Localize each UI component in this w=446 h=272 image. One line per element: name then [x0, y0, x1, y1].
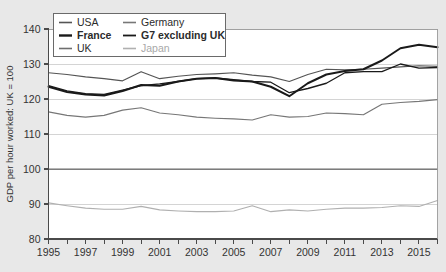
- y-tick-label: 80: [29, 233, 41, 245]
- x-tick-label: 2001: [148, 246, 172, 258]
- x-tick-label: 1999: [111, 246, 135, 258]
- y-axis-title: GDP per hour worked: UK = 100: [4, 66, 15, 203]
- legend-label-g7-excluding-uk: G7 excluding UK: [141, 29, 225, 41]
- legend-label-uk: UK: [77, 42, 92, 54]
- y-tick-label: 100: [23, 163, 41, 175]
- x-tick-label: 1997: [74, 246, 98, 258]
- y-tick-label: 90: [29, 198, 41, 210]
- y-tick-label: 130: [23, 58, 41, 70]
- y-tick-label: 120: [23, 93, 41, 105]
- x-tick-label: 2009: [296, 246, 320, 258]
- y-axis-title-text: GDP per hour worked: UK = 100: [4, 66, 15, 203]
- x-tick-label: 2013: [370, 246, 394, 258]
- x-tick-label: 2005: [222, 246, 246, 258]
- legend-label-germany: Germany: [141, 16, 185, 28]
- legend-label-usa: USA: [77, 16, 99, 28]
- x-tick-label: 2003: [185, 246, 209, 258]
- chart-container: 8090100110120130140 19951997199920012003…: [0, 0, 446, 272]
- x-tick-label: 2007: [259, 246, 283, 258]
- x-tick-label: 2015: [407, 246, 431, 258]
- chart-legend: USAGermanyFranceG7 excluding UKUKJapan: [54, 14, 226, 57]
- legend-label-france: France: [77, 29, 112, 41]
- line-chart: 8090100110120130140 19951997199920012003…: [0, 0, 446, 272]
- y-tick-label: 140: [23, 23, 41, 35]
- y-tick-label: 110: [24, 128, 41, 140]
- x-tick-label: 2011: [334, 246, 357, 258]
- x-tick-labels: 1995199719992001200320052007200920112013…: [37, 246, 431, 258]
- x-tick-label: 1995: [37, 246, 61, 258]
- legend-label-japan: Japan: [141, 42, 170, 54]
